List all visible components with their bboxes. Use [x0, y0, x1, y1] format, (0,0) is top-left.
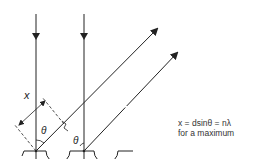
diagram-canvas: x θ θ x = dsinθ = nλ for a maximum	[0, 0, 261, 159]
arrow-down-icon	[80, 33, 88, 40]
label-theta-left: θ	[41, 125, 47, 136]
diffracted-ray-left-line	[36, 29, 157, 151]
path-difference-construction	[14, 97, 64, 151]
theta-arc-right	[80, 143, 84, 146]
incident-ray-left	[32, 14, 40, 159]
label-x: x	[23, 89, 30, 101]
grating-diagram: x θ θ x = dsinθ = nλ for a maximum	[0, 0, 261, 159]
grating-profile	[22, 151, 133, 159]
slit-point-left	[35, 150, 38, 153]
incident-ray-right	[80, 14, 88, 159]
equation-line-1: x = dsinθ = nλ	[178, 118, 232, 128]
diffracted-ray-right-line	[84, 53, 177, 151]
label-theta-right: θ	[73, 135, 79, 146]
arrow-down-icon	[32, 33, 40, 40]
theta-arc-left	[36, 140, 44, 143]
x-dimension-arrow	[19, 101, 45, 125]
slit-point-right	[83, 150, 86, 153]
equation-line-2: for a maximum	[178, 128, 234, 138]
